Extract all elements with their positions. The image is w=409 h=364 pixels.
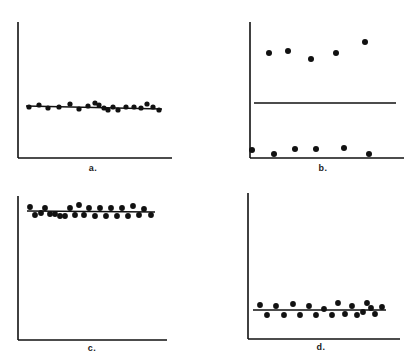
- data-point-a-10: [105, 107, 110, 112]
- data-point-b-10: [366, 151, 372, 157]
- data-point-d-17: [372, 311, 378, 317]
- panel-c: c.: [0, 182, 204, 364]
- data-point-c-22: [141, 206, 147, 212]
- panel-a-plot: [0, 0, 204, 182]
- data-point-b-6: [271, 151, 277, 157]
- data-point-d-18: [379, 304, 385, 310]
- data-point-c-0: [27, 204, 33, 210]
- data-point-c-19: [125, 213, 131, 219]
- data-point-d-6: [306, 303, 312, 309]
- data-point-c-1: [32, 212, 38, 218]
- panel-b-plot: [205, 0, 409, 182]
- data-point-b-4: [362, 39, 368, 45]
- data-point-d-3: [281, 312, 287, 318]
- data-point-c-11: [81, 212, 87, 218]
- data-point-d-11: [342, 311, 348, 317]
- data-point-b-8: [313, 146, 319, 152]
- data-point-a-17: [150, 104, 155, 109]
- panel-b-label: b.: [303, 163, 343, 174]
- data-point-a-15: [138, 105, 143, 110]
- data-point-c-9: [72, 212, 78, 218]
- data-point-c-14: [97, 205, 103, 211]
- data-point-a-5: [76, 106, 81, 111]
- data-point-b-7: [292, 146, 298, 152]
- data-point-c-3: [42, 205, 48, 211]
- panel-c-label: c.: [72, 343, 112, 354]
- data-point-c-8: [67, 205, 73, 211]
- data-point-d-4: [290, 301, 296, 307]
- data-point-a-0: [26, 104, 31, 109]
- data-point-c-5: [52, 211, 58, 217]
- data-point-a-13: [123, 104, 128, 109]
- data-point-c-6: [57, 213, 63, 219]
- panel-c-plot: [0, 182, 204, 364]
- data-point-a-2: [45, 105, 50, 110]
- data-point-d-5: [297, 312, 303, 318]
- data-point-d-16: [368, 305, 374, 311]
- panel-a: a.: [0, 0, 204, 182]
- data-point-c-20: [130, 203, 136, 209]
- data-point-c-7: [62, 213, 68, 219]
- data-point-b-2: [308, 56, 314, 62]
- data-point-c-12: [86, 205, 92, 211]
- data-point-c-23: [148, 212, 154, 218]
- panel-d-label: d.: [301, 342, 341, 353]
- data-point-b-0: [266, 50, 272, 56]
- data-point-a-14: [131, 104, 136, 109]
- data-point-c-2: [38, 210, 44, 216]
- data-point-b-3: [333, 50, 339, 56]
- panel-a-label: a.: [73, 163, 113, 174]
- data-point-d-0: [257, 302, 263, 308]
- data-point-a-11: [110, 104, 115, 109]
- data-point-a-1: [36, 102, 41, 107]
- fit-line-c: [27, 211, 155, 212]
- data-point-c-13: [92, 213, 98, 219]
- data-point-a-3: [56, 104, 61, 109]
- data-point-c-18: [119, 205, 125, 211]
- panel-d: d.: [205, 182, 409, 364]
- data-point-b-9: [341, 145, 347, 151]
- data-point-d-9: [329, 312, 335, 318]
- data-point-d-8: [321, 306, 327, 312]
- data-point-d-10: [335, 300, 341, 306]
- data-point-c-16: [108, 205, 114, 211]
- data-point-a-6: [85, 103, 90, 108]
- data-point-d-1: [264, 312, 270, 318]
- data-point-d-7: [313, 312, 319, 318]
- data-point-a-4: [67, 101, 72, 106]
- data-point-c-21: [136, 212, 142, 218]
- data-point-a-18: [156, 107, 161, 112]
- panel-d-plot: [205, 182, 409, 364]
- data-point-d-15: [364, 300, 370, 306]
- data-point-d-14: [360, 309, 366, 315]
- data-point-b-5: [249, 147, 255, 153]
- data-point-a-12: [115, 107, 120, 112]
- data-point-d-12: [349, 303, 355, 309]
- data-point-c-4: [47, 211, 53, 217]
- residual-plot-figure: a. b. c. d.: [0, 0, 409, 364]
- data-point-d-13: [354, 312, 360, 318]
- data-point-c-10: [76, 202, 82, 208]
- data-point-d-2: [273, 303, 279, 309]
- data-point-a-8: [96, 102, 101, 107]
- data-point-c-15: [103, 213, 109, 219]
- data-point-c-17: [114, 213, 120, 219]
- data-point-b-1: [285, 48, 291, 54]
- data-point-a-16: [144, 101, 149, 106]
- panel-b: b.: [205, 0, 409, 182]
